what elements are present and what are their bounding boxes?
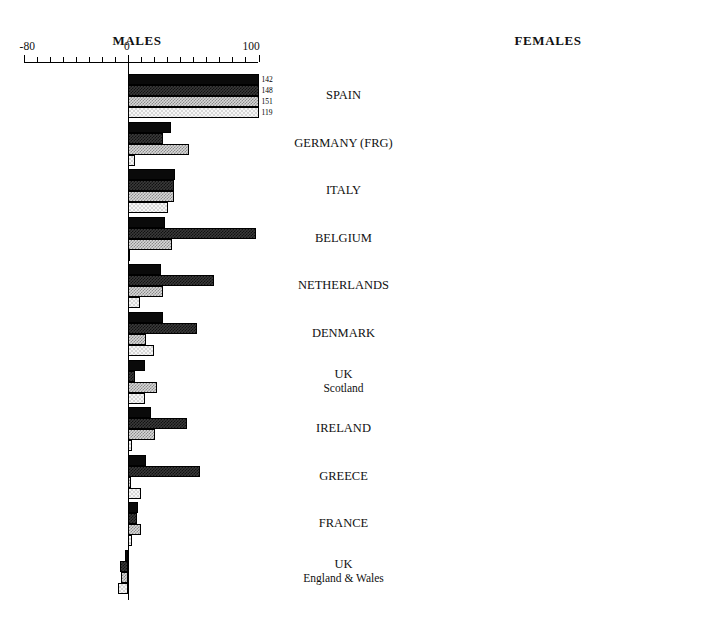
country-label: GERMANY (FRG) [281, 136, 406, 150]
axis-females: -80 0 100 [405, 0, 703, 641]
axis-label-max-males: 100 [243, 40, 260, 52]
country-label-main: GERMANY (FRG) [294, 136, 393, 150]
country-label: FRANCE [281, 516, 406, 530]
bar [128, 202, 168, 213]
bar [128, 133, 163, 144]
axis-tick [50, 57, 51, 62]
bar [118, 583, 128, 594]
bar [128, 393, 145, 404]
bar-value-label: 119 [262, 107, 273, 118]
bar [128, 360, 145, 371]
bar [128, 345, 154, 356]
bar [128, 466, 200, 477]
axis-tick [193, 57, 194, 62]
country-label: NETHERLANDS [281, 278, 406, 292]
bar [128, 535, 132, 546]
country-label-column: SPAINGERMANY (FRG)ITALYBELGIUMNETHERLAND… [281, 0, 406, 641]
bar [128, 418, 187, 429]
axis-tick [206, 57, 207, 62]
country-label: SPAIN [281, 88, 406, 102]
axis-tick [102, 57, 103, 62]
bar [128, 488, 141, 499]
country-label: GREECE [281, 469, 406, 483]
country-label-main: NETHERLANDS [298, 278, 389, 292]
axis-label-min-males: -80 [20, 40, 35, 52]
bar [128, 524, 141, 535]
bar [128, 228, 256, 239]
country-label-main: GREECE [319, 469, 368, 483]
axis-tick [245, 57, 246, 62]
bar [128, 107, 259, 118]
bar [128, 455, 146, 466]
bar [128, 297, 140, 308]
axis-tick [219, 57, 220, 62]
bar [128, 155, 135, 166]
country-label: ITALY [281, 183, 406, 197]
country-label-main: ITALY [326, 183, 361, 197]
country-label-main: BELGIUM [315, 231, 372, 245]
bar [128, 275, 214, 286]
bar [128, 264, 161, 275]
bar [128, 323, 197, 334]
country-label: IRELAND [281, 421, 406, 435]
bar [128, 312, 163, 323]
country-label-main: IRELAND [316, 421, 371, 435]
bar [128, 429, 155, 440]
bar [128, 407, 151, 418]
chart-figure: MALES -80 0 100 142148151119 SPAINGERMAN… [0, 0, 703, 641]
country-label-main: UK [334, 557, 352, 571]
bar [128, 286, 163, 297]
bar [128, 74, 259, 85]
bar [128, 382, 157, 393]
bar [128, 334, 146, 345]
bar [128, 169, 175, 180]
bar [128, 239, 172, 250]
bar [128, 122, 171, 133]
bar [128, 96, 259, 107]
country-label-main: FRANCE [319, 516, 368, 530]
bar [128, 371, 135, 382]
country-label: UKScotland [281, 367, 406, 395]
axis-tick [115, 57, 116, 62]
country-label-sub: England & Wales [281, 571, 406, 585]
country-label: DENMARK [281, 326, 406, 340]
bar [120, 561, 128, 572]
axis-tick [76, 57, 77, 62]
country-label-main: UK [334, 367, 352, 381]
bar-value-label: 151 [262, 96, 273, 107]
bar [128, 250, 130, 261]
bar [125, 550, 128, 561]
country-label-sub: Scotland [281, 381, 406, 395]
panel-males: MALES -80 0 100 142148151119 [0, 0, 290, 641]
country-label-main: DENMARK [312, 326, 375, 340]
axis-tick [63, 57, 64, 62]
axis-tick [259, 55, 260, 62]
axis-tick [89, 57, 90, 62]
bar [128, 440, 132, 451]
bar [121, 572, 128, 583]
axis-label-zero-males: 0 [124, 40, 130, 52]
bar [128, 477, 131, 488]
bar-value-label: 148 [262, 85, 273, 96]
axis-tick [154, 57, 155, 62]
country-label: BELGIUM [281, 231, 406, 245]
bar-value-label: 142 [262, 74, 273, 85]
bar [128, 502, 138, 513]
bar [128, 144, 189, 155]
bar [128, 513, 137, 524]
bar [128, 180, 174, 191]
axis-tick [24, 55, 25, 62]
axis-tick [232, 57, 233, 62]
country-label: UKEngland & Wales [281, 557, 406, 585]
axis-tick [180, 57, 181, 62]
panel-females: FEMALES -80 0 100 200144209202 [405, 0, 703, 641]
axis-tick [128, 55, 129, 62]
bar [128, 217, 165, 228]
country-label-main: SPAIN [326, 88, 361, 102]
bar [128, 85, 259, 96]
axis-tick [167, 57, 168, 62]
bar [128, 191, 174, 202]
axis-tick [37, 57, 38, 62]
axis-line [24, 62, 259, 63]
axis-tick [141, 57, 142, 62]
